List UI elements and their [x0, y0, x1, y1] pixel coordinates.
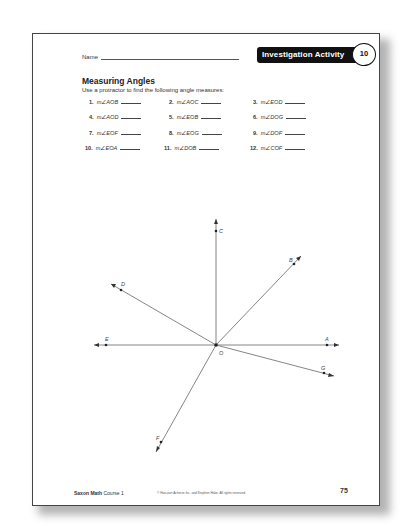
label-c: C: [219, 228, 223, 234]
label-o: O: [219, 350, 224, 356]
label-b: B: [289, 257, 293, 263]
point-a: [326, 344, 329, 347]
label-g: G: [321, 365, 326, 371]
footer-brand: Saxon Math Course 1: [74, 490, 124, 496]
point-e: [105, 344, 108, 347]
label-a: A: [324, 336, 329, 342]
points: [105, 230, 329, 444]
point-g: [323, 372, 326, 375]
page-number: 75: [340, 487, 348, 494]
label-f: F: [156, 435, 160, 441]
worksheet-page: Name Investigation Activity 10 Measuring…: [32, 33, 380, 506]
arrow-c-icon: [214, 219, 218, 224]
arrow-e-icon: [94, 343, 99, 347]
ray-od: [111, 284, 216, 345]
brand-name: Saxon Math: [74, 490, 102, 496]
arrow-g-icon: [328, 373, 334, 377]
point-c: [215, 230, 218, 233]
point-b: [293, 263, 296, 266]
ray-ob: [216, 256, 301, 345]
angle-diagram: O E A C B D G F: [33, 34, 381, 507]
label-d: D: [121, 281, 125, 287]
point-f: [160, 441, 163, 444]
point-o: [214, 343, 218, 347]
ray-og: [216, 345, 334, 376]
arrow-a-icon: [334, 343, 339, 347]
arrow-f-icon: [156, 446, 160, 452]
label-e: E: [105, 336, 109, 342]
copyright-text: © Harcourt Achieve Inc. and Stephen Hake…: [157, 491, 246, 495]
point-d: [120, 289, 123, 292]
course-name: Course 1: [103, 490, 123, 496]
arrowheads: [94, 219, 339, 452]
ray-of: [156, 345, 216, 452]
